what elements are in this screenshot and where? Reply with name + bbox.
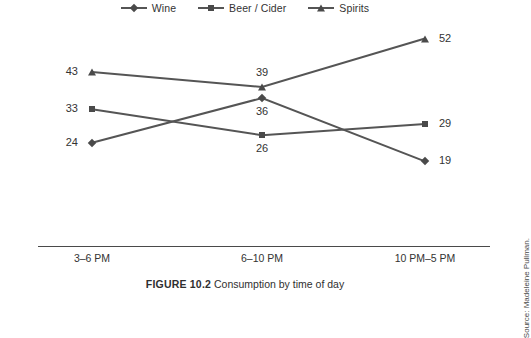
triangle-marker-icon: [87, 67, 97, 77]
data-label: 33: [66, 102, 78, 114]
data-label: 43: [66, 65, 78, 77]
source-credit: Source: Madeleine Pullman.: [522, 238, 531, 338]
data-label: 24: [66, 136, 78, 148]
x-axis-line: [38, 246, 490, 247]
data-label: 26: [256, 142, 268, 154]
x-axis-tick-label: 6–10 PM: [241, 252, 283, 264]
line-chart-plot-area: 243619332629433952: [0, 0, 490, 250]
square-marker-icon: [257, 130, 267, 140]
x-axis-tick-label: 3–6 PM: [74, 252, 110, 264]
data-label: 52: [439, 32, 451, 44]
diamond-marker-icon: [420, 156, 430, 166]
data-label: 29: [439, 117, 451, 129]
x-axis-tick-label: 10 PM–5 PM: [395, 252, 456, 264]
triangle-marker-icon: [257, 82, 267, 92]
triangle-marker-icon: [420, 34, 430, 44]
figure-caption: FIGURE 10.2 Consumption by time of day: [0, 278, 490, 290]
data-label: 36: [256, 105, 268, 117]
data-label: 39: [256, 66, 268, 78]
square-marker-icon: [87, 104, 97, 114]
x-axis-tick-labels: 3–6 PM6–10 PM10 PM–5 PM: [38, 252, 490, 270]
data-label: 19: [439, 154, 451, 166]
series-lines: [0, 0, 490, 250]
diamond-marker-icon: [257, 93, 267, 103]
figure-caption-text: Consumption by time of day: [214, 278, 344, 290]
square-marker-icon: [420, 119, 430, 129]
figure-number: FIGURE 10.2: [146, 278, 211, 290]
diamond-marker-icon: [87, 138, 97, 148]
